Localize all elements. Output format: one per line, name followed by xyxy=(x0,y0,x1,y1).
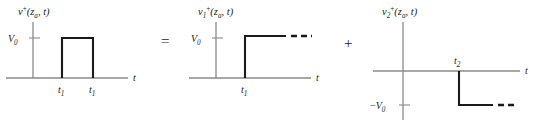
plot-pulse-title: v+(za, t) xyxy=(18,5,50,20)
plot-pulse-waveform xyxy=(62,38,93,78)
plot-step-falling-title: v2+(za, t) xyxy=(382,5,418,20)
plot-step-falling-xtick-0: t2 xyxy=(454,55,461,69)
plot-step-falling-canvas: v2+(za, t) −V0 t t2 xyxy=(365,0,547,127)
plot-step-rising-canvas: v1+(za, t) V0 t t1 xyxy=(183,0,343,127)
plot-step-falling-waveform xyxy=(459,71,493,105)
plot-pulse-canvas: v+(za, t) V0 t t1 t1 xyxy=(0,0,160,127)
plot-step-falling: v2+(za, t) −V0 t t2 xyxy=(365,0,547,127)
plot-step-rising-waveform xyxy=(245,36,286,78)
plot-step-rising: v1+(za, t) V0 t t1 xyxy=(183,0,343,127)
plot-step-rising-x-label: t xyxy=(316,72,319,83)
plot-pulse-xtick-0: t1 xyxy=(58,84,64,98)
operator-plus: + xyxy=(344,36,352,51)
plot-step-falling-x-label: t xyxy=(525,65,528,76)
plot-step-rising-title: v1+(za, t) xyxy=(198,5,234,20)
plot-pulse: v+(za, t) V0 t t1 t1 xyxy=(0,0,160,127)
plot-step-rising-xtick-0: t1 xyxy=(241,84,247,98)
plot-step-falling-y-label: −V0 xyxy=(370,100,386,114)
plot-pulse-xtick-1: t1 xyxy=(89,84,95,98)
plot-step-rising-y-label: V0 xyxy=(191,33,201,47)
plot-pulse-x-label: t xyxy=(133,72,136,83)
plot-pulse-y-label: V0 xyxy=(8,33,18,47)
operator-equals: = xyxy=(161,34,169,49)
waveform-decomposition-figure: v+(za, t) V0 t t1 t1 = v1+(za, t) xyxy=(0,0,547,127)
